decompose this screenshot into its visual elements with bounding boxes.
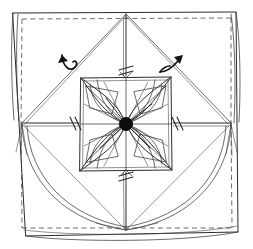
central-pinwheel-rosette xyxy=(80,72,172,176)
converge-right-short xyxy=(126,223,158,230)
origami-diagram-figure: Origami folding diagram — twisted square… xyxy=(0,0,253,249)
center-hub xyxy=(120,118,133,131)
sweep-right-inner xyxy=(126,126,226,227)
dash-left-upper xyxy=(21,19,22,124)
axis-vertical-bottom-ghost xyxy=(124,172,125,228)
arrow-left-head xyxy=(58,55,68,63)
crease-top-to-left-ghost xyxy=(25,16,126,124)
converge-left-short xyxy=(96,223,126,230)
right-flap-edge-inner xyxy=(231,14,235,123)
arrow-left-curve xyxy=(62,55,77,69)
crease-top-to-right xyxy=(126,14,231,123)
arrow-right-head xyxy=(174,55,183,64)
rotate-fold-arrow-left xyxy=(58,55,77,69)
radial-tl xyxy=(86,86,126,124)
diagram-canvas xyxy=(0,0,253,249)
radial-tr xyxy=(126,86,166,124)
spoke-7 xyxy=(84,124,126,146)
spoke-2 xyxy=(126,82,148,124)
bottom-flap-edge-inner xyxy=(24,226,237,234)
sweep-left-inner xyxy=(27,126,126,227)
crease-top-to-right-ghost xyxy=(126,16,228,124)
